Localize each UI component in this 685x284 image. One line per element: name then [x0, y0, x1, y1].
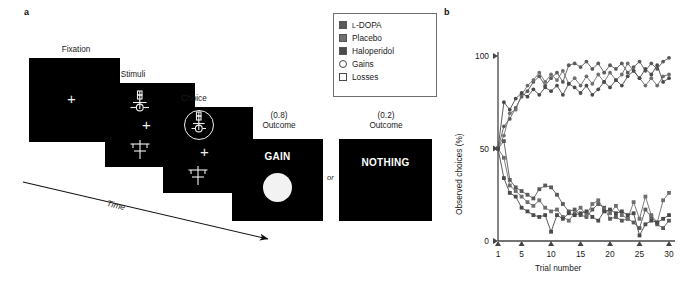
svg-text:0: 0: [484, 236, 489, 246]
or-label: or: [327, 173, 334, 182]
stimulus-symbol-top-icon: [184, 110, 214, 144]
legend-item-haloperidol: Haloperidol: [339, 44, 430, 57]
frame-label-stimuli: Stimuli: [91, 70, 175, 79]
outcome-word-gain: GAIN: [232, 151, 323, 162]
outcome-prob-02: (0.2): [340, 111, 432, 120]
coin-icon: [263, 173, 292, 202]
legend-label-ldopa: L-DOPA: [352, 20, 382, 30]
legend-label-losses: Losses: [352, 72, 378, 82]
outcome-word-nothing: NOTHING: [339, 157, 432, 168]
y-axis-title: Observed choices (%): [454, 133, 464, 215]
stimulus-symbol-bottom-icon: [184, 163, 212, 193]
stimulus-symbol-bottom-icon: [126, 137, 154, 167]
open-square-icon: [339, 73, 347, 81]
svg-text:30: 30: [664, 249, 674, 259]
svg-text:20: 20: [605, 249, 615, 259]
legend-item-losses: Losses: [339, 70, 430, 83]
legend-label-placebo: Placebo: [352, 33, 382, 43]
fixation-cross-icon: +: [67, 91, 76, 106]
svg-text:1: 1: [496, 249, 501, 259]
legend-label-gains: Gains: [352, 59, 374, 69]
fixation-cross-icon: +: [142, 117, 151, 132]
outcome-prob-08: (0.8): [240, 111, 318, 120]
legend-label-haloperidol: Haloperidol: [352, 46, 394, 56]
fixation-cross-icon: +: [200, 144, 209, 159]
frame-outcome-gain: GAIN: [232, 139, 323, 221]
open-circle-icon: [339, 60, 347, 68]
filled-square-icon: [339, 47, 347, 55]
svg-text:100: 100: [475, 51, 489, 61]
frame-outcome-nothing: NOTHING: [339, 139, 432, 221]
svg-text:25: 25: [635, 249, 645, 259]
time-label: Time: [106, 198, 127, 212]
frame-label-outcome-nothing: Outcome: [340, 121, 432, 130]
svg-text:15: 15: [576, 249, 586, 259]
legend-label-ldopa-rest: -DOPA: [356, 20, 382, 30]
svg-text:5: 5: [519, 249, 524, 259]
frame-label-outcome-gain: Outcome: [240, 121, 318, 130]
svg-text:10: 10: [546, 249, 556, 259]
frame-label-choice: Choice: [152, 94, 236, 103]
chart-panel: Observed choices (%) 050100151015202530 …: [440, 0, 685, 284]
filled-square-icon: [339, 34, 347, 42]
legend-item-gains: Gains: [339, 57, 430, 70]
figure-root: a b Fixation + Stimuli +: [0, 0, 685, 284]
legend-item-ldopa: L-DOPA: [339, 18, 430, 31]
panel-a-label: a: [24, 7, 29, 17]
line-chart: 050100151015202530: [440, 0, 685, 284]
svg-text:50: 50: [480, 144, 490, 154]
x-axis-title: Trial number: [535, 263, 581, 273]
legend: L-DOPA Placebo Haloperidol Gains Losses: [333, 13, 437, 97]
legend-item-placebo: Placebo: [339, 31, 430, 44]
frame-label-fixation: Fixation: [34, 45, 118, 54]
filled-square-icon: [339, 21, 347, 29]
